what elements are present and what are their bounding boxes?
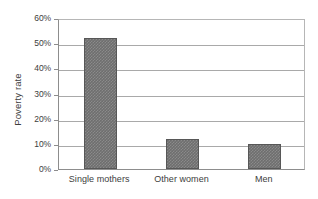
y-axis-tick-mark	[54, 170, 58, 171]
bar-chart: Poverty rate 0%10%20%30%40%50%60% Single…	[0, 0, 318, 199]
y-axis-tick-label: 40%	[34, 63, 51, 73]
y-axis-tick-label: 50%	[34, 38, 51, 48]
bar	[84, 38, 117, 169]
y-axis-tick-label: 60%	[34, 13, 51, 23]
x-axis-tick-label: Single mothers	[58, 174, 140, 184]
y-axis-tick-label: 30%	[34, 89, 51, 99]
bar	[248, 144, 281, 169]
x-axis-tick-label: Other women	[140, 174, 222, 184]
bar	[166, 139, 199, 169]
y-axis-title: Poverty rate	[8, 0, 26, 199]
y-axis-tick-label: 10%	[34, 139, 51, 149]
y-axis-tick-label: 20%	[34, 114, 51, 124]
plot-area	[58, 19, 305, 170]
x-axis-tick-label: Men	[223, 174, 305, 184]
y-axis-tick-label: 0%	[39, 164, 51, 174]
